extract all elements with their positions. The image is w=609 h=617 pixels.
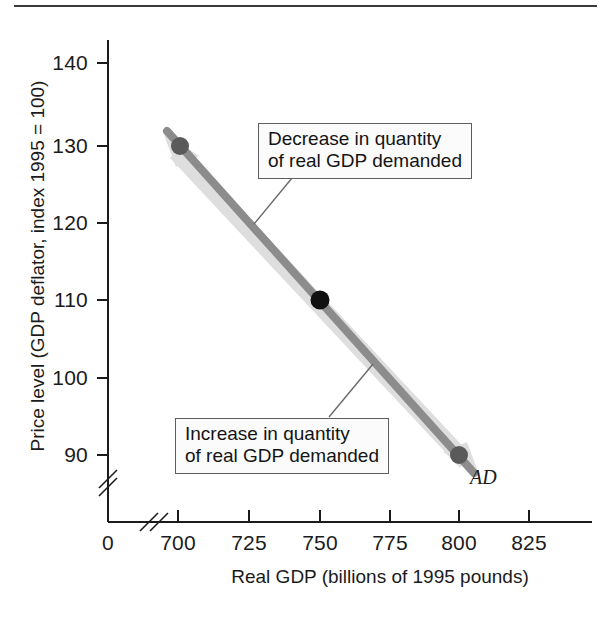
ad-curve-figure: 140 130 120 110 100 90 0 700 725 750 775… <box>0 0 609 617</box>
annotation-decrease-line-1: Decrease in quantity <box>268 128 462 150</box>
chart-plot-area <box>0 0 609 617</box>
y-axis-ticks <box>97 63 108 455</box>
ad-curve-label: AD <box>470 466 497 489</box>
x-tick-label-775: 775 <box>355 531 425 555</box>
annotation-decrease-line-2: of real GDP demanded <box>268 150 462 172</box>
x-tick-label-825: 825 <box>494 531 564 555</box>
x-axis-ticks <box>178 510 529 522</box>
annotation-increase-line-2: of real GDP demanded <box>185 445 379 467</box>
x-tick-label-750: 750 <box>285 531 355 555</box>
annotation-increase-quantity: Increase in quantity of real GDP demande… <box>175 418 389 474</box>
axis-origin-label: 0 <box>90 531 126 555</box>
x-tick-label-725: 725 <box>214 531 284 555</box>
x-axis-title: Real GDP (billions of 1995 pounds) <box>180 566 580 588</box>
x-tick-label-800: 800 <box>424 531 494 555</box>
annotation-decrease-quantity: Decrease in quantity of real GDP demande… <box>258 123 472 179</box>
y-axis-title: Price level (GDP deflator, index 1995 = … <box>27 31 49 501</box>
x-tick-label-700: 700 <box>143 531 213 555</box>
data-point-800-90 <box>450 446 468 464</box>
annotation-increase-line-1: Increase in quantity <box>185 423 379 445</box>
data-point-750-110 <box>311 291 330 310</box>
data-point-700-130 <box>171 137 189 155</box>
